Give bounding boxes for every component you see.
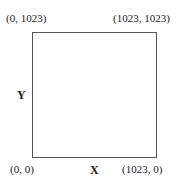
y-axis-label: Y (17, 89, 26, 101)
corner-label-top-right: (1023, 1023) (113, 13, 170, 24)
corner-label-bottom-right: (1023, 0) (122, 164, 162, 175)
x-axis-label: X (90, 164, 99, 176)
corner-label-top-left: (0, 1023) (6, 13, 46, 24)
corner-label-bottom-left: (0, 0) (10, 164, 34, 175)
coordinate-square (32, 32, 157, 158)
